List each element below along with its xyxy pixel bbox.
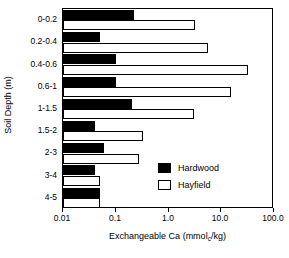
y-tick-label-2-3: 2-3	[45, 147, 57, 157]
x-tick-0.01	[62, 208, 63, 212]
x-tick-label-1.0: 1.0	[148, 213, 188, 223]
chart-legend: HardwoodHayfield	[158, 160, 219, 194]
x-tick-label-100.0: 100.0	[253, 213, 289, 223]
x-tick-100.0	[273, 208, 274, 212]
x-tick-1.0	[168, 208, 169, 212]
x-axis-title: Exchangeable Ca (mmolc/kg)	[62, 231, 273, 242]
y-tick-label-4-5: 4-5	[45, 192, 57, 202]
bar-hardwood-2-3	[63, 143, 104, 153]
bar-hayfield-0.2-0.4	[63, 43, 208, 53]
bar-hayfield-1-1.5	[63, 109, 194, 119]
bar-hayfield-0-0.2	[63, 20, 195, 30]
chart-figure: Soil Depth (m) 0-0.20.2-0.40.4-0.60.6-11…	[0, 0, 289, 258]
bar-hardwood-0.4-0.6	[63, 54, 116, 64]
y-tick-label-0-0.2: 0-0.2	[38, 14, 57, 24]
x-axis-title-head: Exchangeable Ca (mmol	[109, 231, 208, 241]
bar-hardwood-0.2-0.4	[63, 32, 100, 42]
bar-hardwood-1.5-2	[63, 121, 95, 131]
bar-hayfield-3-4	[63, 176, 100, 186]
y-axis-title-text: Soil Depth (m)	[3, 76, 13, 134]
y-tick-label-0.4-0.6: 0.4-0.6	[31, 59, 57, 69]
legend-swatch-hardwood	[158, 163, 171, 173]
x-tick-label-0.1: 0.1	[95, 213, 135, 223]
y-tick-label-0.2-0.4: 0.2-0.4	[31, 36, 57, 46]
bar-hayfield-1.5-2	[63, 131, 143, 141]
bar-hardwood-0-0.2	[63, 10, 134, 20]
x-tick-10.0	[220, 208, 221, 212]
bar-hayfield-0.6-1	[63, 87, 231, 97]
x-tick-label-10.0: 10.0	[200, 213, 240, 223]
y-tick-label-0.6-1: 0.6-1	[38, 81, 57, 91]
y-tick-label-1.5-2: 1.5-2	[38, 125, 57, 135]
bar-hardwood-4-5	[63, 188, 100, 198]
y-tick-label-1-1.5: 1-1.5	[38, 103, 57, 113]
legend-item-hayfield: Hayfield	[158, 177, 219, 192]
x-tick-0.1	[115, 208, 116, 212]
y-tick-label-3-4: 3-4	[45, 170, 57, 180]
y-axis-tick-labels: 0-0.20.2-0.40.4-0.60.6-11-1.51.5-22-33-4…	[14, 8, 60, 208]
legend-label-hayfield: Hayfield	[178, 180, 211, 190]
bar-hardwood-0.6-1	[63, 77, 116, 87]
bar-hardwood-3-4	[63, 165, 95, 175]
bar-hayfield-4-5	[63, 198, 100, 208]
legend-label-hardwood: Hardwood	[178, 163, 219, 173]
bar-hardwood-1-1.5	[63, 99, 132, 109]
legend-item-hardwood: Hardwood	[158, 160, 219, 175]
x-axis-title-tail: /kg)	[211, 231, 226, 241]
bar-hayfield-2-3	[63, 154, 139, 164]
bar-hayfield-0.4-0.6	[63, 65, 248, 75]
legend-swatch-hayfield	[158, 180, 171, 190]
x-tick-label-0.01: 0.01	[42, 213, 82, 223]
